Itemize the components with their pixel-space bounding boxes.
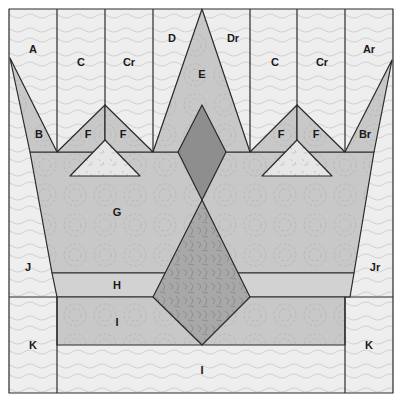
label-F-2: F [120,128,127,140]
label-I-lower: I [200,364,203,376]
label-Cr-right: Cr [316,56,329,68]
label-F-4: F [313,128,320,140]
label-C-right: C [271,56,279,68]
label-F-1: F [85,128,92,140]
label-D: D [168,32,176,44]
label-G: G [113,206,122,218]
label-Jr: Jr [370,261,381,273]
label-Br: Br [359,128,372,140]
label-K-right: K [365,339,373,351]
label-Cr-left: Cr [123,56,136,68]
label-J: J [25,261,31,273]
quilt-block-diagram: A C Cr D Dr E C Cr Ar B F F F F Br G J J… [0,0,402,399]
label-Ar: Ar [363,43,376,55]
label-Dr: Dr [227,32,240,44]
label-C-left: C [77,56,85,68]
label-A: A [29,43,37,55]
label-B: B [35,128,43,140]
label-H: H [113,279,121,291]
label-K-left: K [29,339,37,351]
label-I-upper: I [115,316,118,328]
label-F-3: F [278,128,285,140]
label-E: E [198,68,205,80]
